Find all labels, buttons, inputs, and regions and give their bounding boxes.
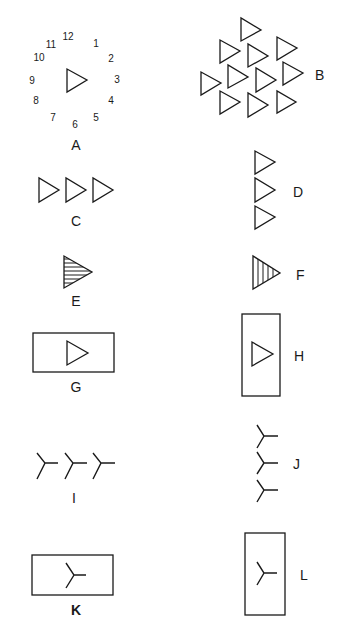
- triangle-icon: [255, 178, 275, 202]
- triangle-icon: [241, 18, 261, 41]
- panel-label-g: G: [71, 379, 82, 395]
- horizontal-frame: [33, 333, 114, 372]
- horizontal-frame: [32, 555, 113, 595]
- panel-f: F: [253, 250, 305, 295]
- panel-label-d: D: [293, 184, 303, 200]
- panel-label-e: E: [71, 293, 80, 309]
- panel-label-b: B: [315, 67, 324, 83]
- panel-l: L: [245, 533, 308, 615]
- panel-k: K: [32, 555, 113, 618]
- triangle-icon: [39, 178, 59, 202]
- clock-number-12: 12: [62, 31, 74, 42]
- vertical-frame: [242, 314, 280, 396]
- clock-number-4: 4: [108, 95, 114, 106]
- panel-label-l: L: [300, 567, 308, 583]
- clock-number-2: 2: [108, 53, 114, 64]
- triangle-icon: [248, 44, 268, 67]
- triangle-icon: [283, 62, 303, 85]
- triangle-icon: [67, 69, 87, 92]
- clock-number-11: 11: [46, 39, 57, 50]
- y-mark-icon: [37, 453, 58, 479]
- hatched-triangle-icon: [253, 256, 280, 289]
- y-mark-icon: [66, 563, 86, 588]
- vertical-hatching: [258, 250, 273, 295]
- panel-h: H: [242, 314, 304, 396]
- clock-number-9: 9: [29, 75, 35, 86]
- triangle-icon: [255, 206, 275, 229]
- triangle-icon: [228, 65, 248, 88]
- triangle-icon: [220, 40, 240, 63]
- y-mark-icon: [257, 562, 277, 585]
- panel-i: I: [37, 453, 115, 506]
- triangle-icon: [220, 91, 240, 114]
- symbol-figure: 12 1 2 3 4 5 6 7 8 9 10 11 A B C: [0, 0, 343, 629]
- panel-label-i: I: [72, 490, 76, 506]
- y-mark-icon: [257, 425, 278, 448]
- panel-e: E: [60, 256, 96, 309]
- panel-label-j: J: [293, 456, 300, 472]
- clock-number-5: 5: [93, 112, 99, 123]
- panel-d: D: [255, 151, 303, 229]
- clock-number-10: 10: [33, 52, 45, 63]
- clock-number-7: 7: [50, 112, 56, 123]
- y-mark-icon: [65, 453, 87, 479]
- y-mark-icon: [257, 480, 278, 502]
- panel-b: B: [201, 18, 324, 117]
- triangle-icon: [277, 91, 296, 113]
- triangle-icon: [93, 178, 113, 202]
- panel-label-k: K: [71, 602, 81, 618]
- y-mark-icon: [257, 452, 278, 474]
- triangle-icon: [252, 342, 273, 366]
- panel-c: C: [39, 178, 113, 229]
- panel-a: 12 1 2 3 4 5 6 7 8 9 10 11 A: [29, 31, 120, 153]
- triangle-icon: [255, 151, 275, 174]
- clock-number-6: 6: [72, 119, 78, 130]
- panel-label-h: H: [294, 348, 304, 364]
- clock-number-8: 8: [33, 95, 39, 106]
- panel-label-a: A: [71, 137, 81, 153]
- panel-label-c: C: [71, 213, 81, 229]
- triangle-icon: [67, 341, 88, 365]
- clock-number-1: 1: [93, 38, 99, 49]
- panel-label-f: F: [296, 267, 305, 283]
- triangle-icon: [277, 37, 297, 60]
- clock-number-3: 3: [114, 74, 120, 85]
- vertical-frame: [245, 533, 285, 615]
- triangle-icon: [201, 72, 221, 95]
- y-mark-icon: [93, 453, 115, 479]
- triangle-icon: [256, 68, 276, 92]
- triangle-icon: [248, 93, 268, 117]
- panel-g: G: [33, 333, 114, 395]
- triangle-icon: [66, 178, 86, 202]
- panel-j: J: [257, 425, 300, 502]
